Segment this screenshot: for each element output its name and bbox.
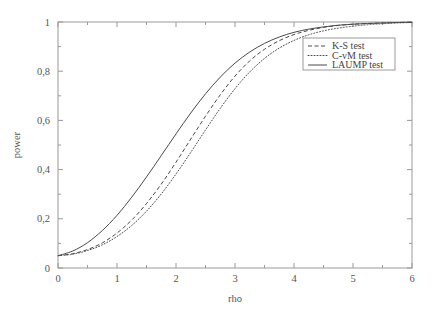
- power-curve-chart: 012345600,20,40,60,81rhopowerK-S testC-v…: [0, 0, 437, 312]
- y-tick-label: 1: [45, 17, 50, 28]
- y-tick-label: 0: [45, 263, 50, 274]
- y-tick-label: 0,8: [37, 66, 50, 77]
- chart-canvas: 012345600,20,40,60,81rhopowerK-S testC-v…: [0, 0, 437, 312]
- y-tick-label: 0,4: [37, 164, 51, 175]
- x-tick-label: 1: [114, 273, 119, 284]
- x-tick-label: 5: [350, 273, 355, 284]
- y-tick-label: 0,2: [37, 213, 50, 224]
- legend-label-2: LAUMP test: [332, 59, 383, 70]
- y-axis-title: power: [11, 131, 22, 158]
- x-tick-label: 6: [409, 273, 414, 284]
- x-axis-title: rho: [228, 293, 242, 304]
- x-tick-label: 3: [232, 273, 237, 284]
- y-tick-label: 0,6: [37, 115, 50, 126]
- x-tick-label: 2: [173, 273, 178, 284]
- x-tick-label: 4: [291, 273, 297, 284]
- x-tick-label: 0: [55, 273, 60, 284]
